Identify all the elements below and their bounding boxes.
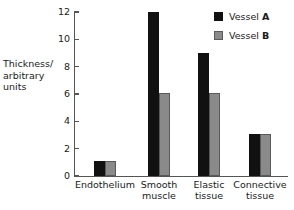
bar-chart-screenshot: Thickness/ arbitrary units 024681012 End… bbox=[0, 0, 294, 210]
legend-item[interactable]: Vessel A bbox=[214, 9, 269, 24]
y-tick-label-wrap: 8 bbox=[48, 67, 70, 68]
y-tick-label: 8 bbox=[50, 62, 70, 72]
y-tick-label-wrap: 6 bbox=[48, 94, 70, 95]
legend-label-prefix: Vessel bbox=[229, 30, 262, 41]
legend-swatch-icon bbox=[214, 31, 223, 40]
y-tick-label-wrap: 0 bbox=[48, 176, 70, 177]
bar-series-b[interactable] bbox=[159, 93, 170, 176]
y-axis-title-line-2: arbitrary bbox=[3, 70, 59, 82]
bar-group bbox=[148, 12, 170, 176]
x-axis-category-label: Connectivetissue bbox=[223, 179, 294, 201]
legend-label-key: A bbox=[262, 11, 269, 22]
x-axis-category-label-line: tissue bbox=[223, 190, 294, 201]
bar-series-b[interactable] bbox=[260, 134, 271, 176]
bar-series-a[interactable] bbox=[249, 134, 260, 176]
legend-item[interactable]: Vessel B bbox=[214, 28, 269, 43]
y-tick-label-wrap: 12 bbox=[48, 12, 70, 13]
y-tick-label-wrap: 4 bbox=[48, 121, 70, 122]
x-axis-category-label-line: Connective bbox=[223, 179, 294, 190]
y-tick-label: 12 bbox=[50, 7, 70, 17]
y-tick-label: 2 bbox=[50, 144, 70, 154]
bar-series-b[interactable] bbox=[105, 161, 116, 176]
legend-swatch-icon bbox=[214, 12, 223, 21]
y-tick-label-wrap: 10 bbox=[48, 39, 70, 40]
y-tick-label-wrap: 2 bbox=[48, 149, 70, 150]
bar-series-b[interactable] bbox=[209, 93, 220, 176]
y-tick-label: 4 bbox=[50, 116, 70, 126]
legend-label: Vessel B bbox=[229, 30, 269, 41]
legend-label: Vessel A bbox=[229, 11, 269, 22]
chart-legend: Vessel AVessel B bbox=[214, 9, 269, 47]
bar-group bbox=[94, 12, 116, 176]
y-tick-label: 0 bbox=[50, 171, 70, 181]
legend-label-prefix: Vessel bbox=[229, 11, 262, 22]
bar-series-a[interactable] bbox=[94, 161, 105, 176]
bar-series-a[interactable] bbox=[198, 53, 209, 176]
legend-label-key: B bbox=[262, 30, 269, 41]
y-tick-label: 10 bbox=[50, 34, 70, 44]
y-tick-label: 6 bbox=[50, 89, 70, 99]
bar-series-a[interactable] bbox=[148, 12, 159, 176]
